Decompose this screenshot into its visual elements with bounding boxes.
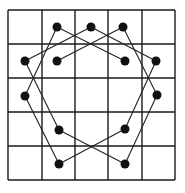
dot-node: [153, 91, 162, 100]
path-edges: [25, 27, 157, 164]
path-edge: [25, 27, 57, 96]
path-edge: [125, 95, 157, 164]
dot-node: [152, 57, 161, 66]
dot-node: [121, 125, 130, 134]
dot-node: [121, 57, 130, 66]
dot-node: [53, 23, 62, 32]
path-edge: [125, 61, 156, 129]
dot-node: [53, 57, 62, 66]
grid-diagram: [0, 0, 185, 193]
dot-node: [87, 23, 96, 32]
dot-node: [21, 57, 30, 66]
dot-node: [21, 92, 30, 101]
dot-node: [55, 160, 64, 169]
dot-node: [55, 126, 64, 135]
grid-lines: [8, 10, 175, 180]
dot-node: [119, 23, 128, 32]
dot-node: [121, 160, 130, 169]
